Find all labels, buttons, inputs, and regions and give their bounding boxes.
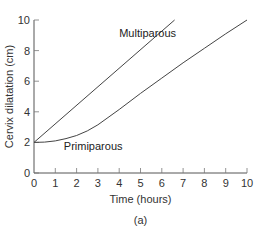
chart: 0246810012345678910 MultiparousPrimiparo… [0,0,264,238]
x-tick-label: 0 [31,177,37,189]
x-tick-label: 2 [74,177,80,189]
x-tick-label: 6 [159,177,165,189]
y-tick-label: 0 [24,167,30,179]
annotation-primiparous: Primiparous [64,140,123,152]
x-tick-label: 4 [116,177,122,189]
axes: 0246810012345678910 [18,14,253,189]
figure-caption: (a) [134,214,147,226]
y-tick-label: 2 [24,136,30,148]
x-tick-label: 1 [52,177,58,189]
x-tick-label: 10 [241,177,253,189]
y-axis-title: Cervix dilatation (cm) [3,45,15,148]
annotation-multiparous: Multiparous [119,27,176,39]
y-tick-label: 4 [24,106,30,118]
y-tick-label: 6 [24,75,30,87]
x-axis-title: Time (hours) [110,193,172,205]
labels: MultiparousPrimiparousTime (hours)Cervix… [3,27,177,226]
x-tick-label: 5 [137,177,143,189]
x-tick-label: 7 [180,177,186,189]
x-tick-label: 3 [95,177,101,189]
y-tick-label: 10 [18,14,30,26]
y-tick-label: 8 [24,45,30,57]
x-tick-label: 9 [223,177,229,189]
x-tick-label: 8 [201,177,207,189]
